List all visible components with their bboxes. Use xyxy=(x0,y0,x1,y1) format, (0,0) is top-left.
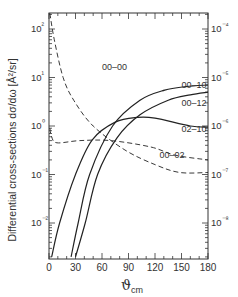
x-tick-label: 60 xyxy=(96,262,108,273)
y-tick-label-right: 10⁻⁴ xyxy=(211,21,229,34)
y-tick-label-right: 10⁻⁸ xyxy=(211,215,229,228)
label-02-10: 02–10 xyxy=(182,124,207,134)
y-tick-label-right: 10⁻⁵ xyxy=(211,70,229,83)
y-tick-label-left: 10⁰ xyxy=(31,118,45,131)
cross-section-chart: 030609012015018010²10¹10⁰10⁻¹10⁻²10⁻⁴10⁻… xyxy=(0,0,238,297)
x-tick-label: 180 xyxy=(200,262,217,273)
x-tick-label: 0 xyxy=(46,262,52,273)
y-tick-label-left: 10⁻¹ xyxy=(31,167,49,180)
x-tick-label: 90 xyxy=(123,262,135,273)
label-00-02: 00–02 xyxy=(159,150,184,160)
curve-00-10 xyxy=(71,85,208,257)
x-axis-title: ϑcm xyxy=(121,277,143,295)
x-tick-label: 120 xyxy=(147,262,164,273)
y-tick-label-left: 10¹ xyxy=(31,70,45,83)
y-tick-label-right: 10⁻⁶ xyxy=(211,118,229,131)
label-00-10: 00–10 xyxy=(182,80,207,90)
plot-frame xyxy=(49,13,208,259)
x-tick-label: 150 xyxy=(173,262,190,273)
y-tick-label-left: 10⁻² xyxy=(31,215,49,228)
x-tick-label: 30 xyxy=(70,262,82,273)
label-00-00: 00–00 xyxy=(102,62,127,72)
label-00-12: 00–12 xyxy=(182,98,207,108)
y-tick-label-right: 10⁻⁷ xyxy=(211,167,229,180)
plot-curves xyxy=(50,13,208,257)
y-tick-label-left: 10² xyxy=(31,21,45,34)
